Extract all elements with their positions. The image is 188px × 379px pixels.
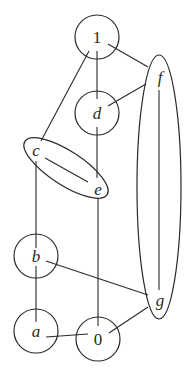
- node-label-b: b: [32, 247, 41, 266]
- edge-1-c: [41, 51, 89, 141]
- node-label-a: a: [32, 322, 41, 341]
- edge-1-f: [108, 44, 148, 67]
- node-label-c: c: [32, 141, 40, 160]
- node-label-e: e: [94, 180, 102, 199]
- graph-diagram: cefg 1dba0: [0, 0, 188, 379]
- edge-b-g: [46, 261, 148, 295]
- edge-a-0: [46, 334, 88, 337]
- node-label-1: 1: [93, 28, 102, 47]
- edge-g-0: [109, 307, 148, 333]
- node-label-f: f: [158, 68, 165, 87]
- node-label-g: g: [156, 291, 165, 310]
- edge-d-f: [108, 84, 146, 106]
- node-label-0: 0: [94, 330, 103, 349]
- node-label-d: d: [93, 104, 102, 123]
